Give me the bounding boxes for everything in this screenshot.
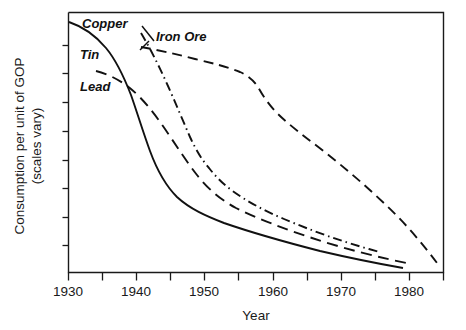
y-axis-title-line2: (scales vary) (29, 108, 44, 185)
series-label-copper: Copper (82, 16, 128, 31)
x-tick-label-1930: 1930 (53, 284, 83, 299)
x-axis-title: Year (242, 308, 270, 323)
x-tick-label-1960: 1960 (258, 284, 288, 299)
consumption-per-unit-gop-line-chart: Copper Tin Lead Iron Ore 1930 1940 1950 … (0, 0, 466, 330)
x-tick-label-1940: 1940 (121, 284, 151, 299)
x-tick-label-1970: 1970 (326, 284, 356, 299)
y-axis-title-line1: Consumption per unit of GOP (12, 57, 27, 234)
chart-background (0, 0, 466, 330)
x-tick-label-1980: 1980 (394, 284, 424, 299)
chart-figure: Copper Tin Lead Iron Ore 1930 1940 1950 … (0, 0, 466, 330)
series-label-iron-ore: Iron Ore (156, 29, 207, 44)
series-label-lead: Lead (80, 79, 111, 94)
x-tick-label-1950: 1950 (189, 284, 219, 299)
series-label-tin: Tin (80, 47, 99, 62)
